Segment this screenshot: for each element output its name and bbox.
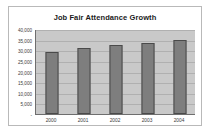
bar-slot xyxy=(164,30,196,114)
chart-card: Job Fair Attendance Growth 40,00035,0003… xyxy=(8,6,202,126)
chart-title: Job Fair Attendance Growth xyxy=(9,13,201,22)
x-axis-tick-label: 2000 xyxy=(46,118,57,124)
bar[interactable] xyxy=(110,45,123,114)
bar-slot xyxy=(68,30,100,114)
x-axis-tick-label: 2002 xyxy=(110,118,121,124)
y-axis-tick-label: 20,000 xyxy=(7,70,32,75)
plot-wrapper: 40,00035,00030,00025,00020,00015,00010,0… xyxy=(35,30,195,115)
y-axis-tick-label: 10,000 xyxy=(7,91,32,96)
y-axis-tick-label: 40,000 xyxy=(7,28,32,33)
y-axis-tick-label: 25,000 xyxy=(7,59,32,64)
x-axis-tick-label: 2004 xyxy=(174,118,185,124)
y-axis-tick-label: - xyxy=(7,113,32,118)
bar[interactable] xyxy=(174,40,187,114)
x-axis-tick-label: 2001 xyxy=(78,118,89,124)
bar-slot xyxy=(100,30,132,114)
y-axis-tick-label: 30,000 xyxy=(7,49,32,54)
y-axis: 40,00035,00030,00025,00020,00015,00010,0… xyxy=(9,30,34,115)
bar[interactable] xyxy=(78,48,91,114)
y-axis-tick-label: 15,000 xyxy=(7,81,32,86)
bar-slot xyxy=(36,30,68,114)
bar[interactable] xyxy=(46,52,59,114)
bar[interactable] xyxy=(142,43,155,114)
bar-series xyxy=(36,30,195,114)
plot-area xyxy=(35,30,195,115)
bar-slot xyxy=(132,30,164,114)
x-axis: 20002001200220032004 xyxy=(35,118,195,128)
x-axis-tick-label: 2003 xyxy=(142,118,153,124)
y-axis-tick-label: 5,000 xyxy=(7,102,32,107)
y-axis-tick-label: 35,000 xyxy=(7,38,32,43)
